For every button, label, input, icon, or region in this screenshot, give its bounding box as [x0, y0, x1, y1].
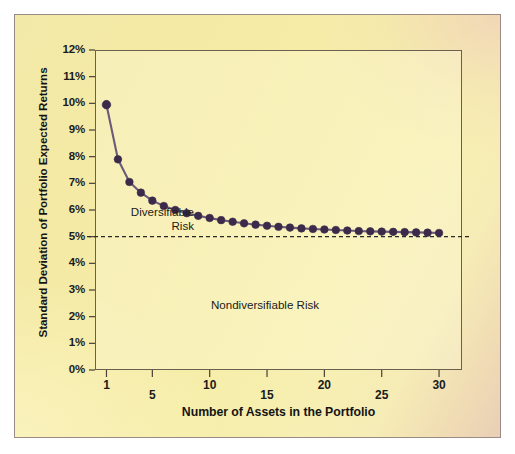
- x-tick-label: 15: [247, 388, 287, 402]
- data-point: [217, 216, 225, 224]
- x-tick-label: 1: [86, 378, 126, 392]
- x-tick-label: 5: [132, 388, 172, 402]
- data-point: [412, 229, 420, 237]
- data-point: [378, 228, 386, 236]
- data-point: [309, 225, 317, 233]
- data-point: [206, 214, 214, 222]
- data-point: [366, 228, 374, 236]
- data-point: [389, 228, 397, 236]
- diversifiable-risk-label: Diversifiable Risk: [100, 205, 194, 233]
- data-point: [321, 226, 329, 234]
- data-point: [114, 156, 122, 164]
- x-axis-ticks: [106, 370, 439, 377]
- x-tick-label: 30: [419, 378, 459, 392]
- x-axis-title: Number of Assets in the Portfolio: [95, 405, 462, 419]
- data-point: [137, 189, 145, 197]
- data-point: [263, 222, 271, 230]
- data-point: [126, 178, 134, 186]
- x-tick-label: 10: [190, 378, 230, 392]
- data-point: [401, 228, 409, 236]
- data-point: [252, 221, 260, 229]
- figure-container: 0%1%2%3%4%5%6%7%8%9%10%11%12% 1510152025…: [0, 0, 515, 454]
- data-point: [298, 225, 306, 233]
- data-point: [344, 227, 352, 235]
- y-axis-ticks: [89, 50, 95, 370]
- data-point: [424, 229, 432, 237]
- data-point: [355, 227, 363, 235]
- y-tick-label: 0%: [29, 363, 85, 375]
- x-tick-label: 20: [304, 378, 344, 392]
- x-tick-label: 25: [362, 388, 402, 402]
- data-point: [286, 224, 294, 232]
- y-axis-title: Standard Deviation of Portfolio Expected…: [36, 53, 49, 353]
- data-point: [102, 100, 111, 109]
- data-point: [149, 197, 157, 205]
- data-point: [275, 223, 283, 231]
- data-point: [435, 229, 443, 237]
- data-point: [240, 220, 248, 228]
- nondiversifiable-risk-label: Nondiversifiable Risk: [175, 298, 355, 311]
- data-point: [332, 226, 340, 234]
- data-point: [194, 212, 202, 220]
- data-point: [229, 218, 237, 226]
